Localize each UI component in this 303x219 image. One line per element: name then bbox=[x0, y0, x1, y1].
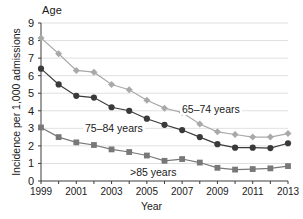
data-point-marker bbox=[249, 134, 256, 141]
data-point-marker bbox=[73, 139, 79, 145]
data-point-marker bbox=[162, 158, 168, 164]
data-point-marker bbox=[285, 140, 291, 146]
data-point-marker bbox=[90, 69, 97, 76]
data-point-marker bbox=[179, 127, 185, 133]
data-point-marker bbox=[232, 145, 238, 151]
data-point-marker bbox=[250, 166, 256, 172]
data-point-marker bbox=[126, 149, 132, 155]
incidence-line-chart: Age Incidence per 1,000 admissions Year … bbox=[0, 0, 303, 219]
data-point-marker bbox=[126, 86, 133, 93]
data-point-marker bbox=[267, 134, 274, 141]
data-point-marker bbox=[56, 134, 62, 140]
data-point-marker bbox=[267, 145, 273, 151]
data-point-marker bbox=[232, 167, 238, 173]
data-point-marker bbox=[56, 81, 62, 87]
data-point-marker bbox=[285, 130, 292, 137]
plot-area bbox=[0, 0, 303, 219]
data-point-marker bbox=[108, 81, 115, 88]
data-point-marker bbox=[91, 142, 97, 148]
series-annotation-label: >85 years bbox=[128, 166, 178, 178]
data-point-marker bbox=[109, 147, 115, 153]
data-point-marker bbox=[197, 134, 203, 140]
data-point-marker bbox=[214, 128, 221, 135]
series-annotation-label: 65–74 years bbox=[180, 103, 242, 115]
data-point-marker bbox=[214, 141, 220, 147]
data-point-marker bbox=[267, 165, 273, 171]
data-point-marker bbox=[91, 95, 97, 101]
data-point-marker bbox=[215, 165, 221, 171]
data-point-marker bbox=[232, 131, 239, 138]
data-point-marker bbox=[196, 120, 203, 127]
data-point-marker bbox=[144, 116, 150, 122]
data-point-marker bbox=[143, 97, 150, 104]
data-point-marker bbox=[161, 122, 167, 128]
data-point-marker bbox=[250, 145, 256, 151]
data-point-marker bbox=[197, 160, 203, 166]
data-point-marker bbox=[179, 156, 185, 162]
data-point-marker bbox=[38, 125, 44, 131]
data-point-marker bbox=[73, 93, 79, 99]
data-point-marker bbox=[108, 104, 114, 110]
series-annotation-label: 75–84 years bbox=[83, 122, 145, 134]
data-point-marker bbox=[144, 153, 150, 159]
data-point-marker bbox=[285, 163, 291, 169]
data-point-marker bbox=[38, 66, 44, 72]
data-point-marker bbox=[126, 108, 132, 114]
